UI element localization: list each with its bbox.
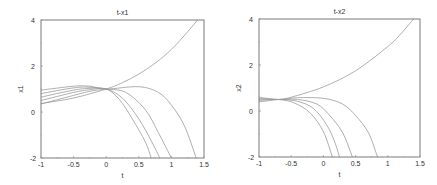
x-tick-label: -1 (256, 160, 262, 167)
x-tick-label: -0.5 (285, 160, 297, 167)
series-upper (259, 19, 414, 102)
charts-canvas: -1-0.500.511.5-2024t-x1tx1 -1-0.500.511.… (0, 0, 437, 185)
y-axis-label: x2 (235, 84, 242, 92)
chart-title: t-x2 (334, 8, 346, 15)
plot-area (259, 19, 414, 157)
x-tick-label: 1.5 (415, 160, 425, 167)
x-tick-label: 1 (386, 160, 390, 167)
series-upper (41, 20, 198, 104)
plot-area (41, 20, 198, 158)
x-tick-label: 0 (104, 161, 108, 168)
series-c3 (259, 99, 340, 157)
x-axis-label: t (339, 171, 341, 178)
x-tick-label: 0.5 (134, 161, 144, 168)
chart-title: t-x1 (117, 9, 129, 16)
x-tick-label: -1 (38, 161, 44, 168)
x-tick-label: 1.5 (199, 161, 209, 168)
y-tick-label: 4 (249, 16, 253, 23)
chart-t-x1: -1-0.500.511.5-2024t-x1tx1 (17, 9, 209, 179)
series-c2 (41, 87, 171, 158)
series-c1 (41, 86, 196, 158)
x-tick-label: -0.5 (68, 161, 80, 168)
chart-t-x2: -1-0.500.511.5-2024t-x2tx2 (235, 8, 425, 178)
y-tick-label: 2 (31, 63, 35, 70)
y-tick-label: 4 (31, 17, 35, 24)
y-tick-label: 2 (249, 62, 253, 69)
x-axis-label: t (122, 172, 124, 179)
series-c4 (259, 99, 332, 157)
series-c3 (41, 88, 160, 158)
series-c1 (259, 97, 378, 157)
y-axis-label: x1 (17, 85, 24, 93)
x-tick-label: 1 (169, 161, 173, 168)
series-c2 (259, 98, 352, 157)
x-tick-label: 0.5 (351, 160, 361, 167)
x-tick-label: 0 (321, 160, 325, 167)
y-tick-label: -2 (30, 155, 36, 162)
y-tick-label: 0 (249, 108, 253, 115)
y-tick-label: -2 (248, 154, 254, 161)
y-tick-label: 0 (31, 109, 35, 116)
series-c5 (41, 89, 106, 104)
